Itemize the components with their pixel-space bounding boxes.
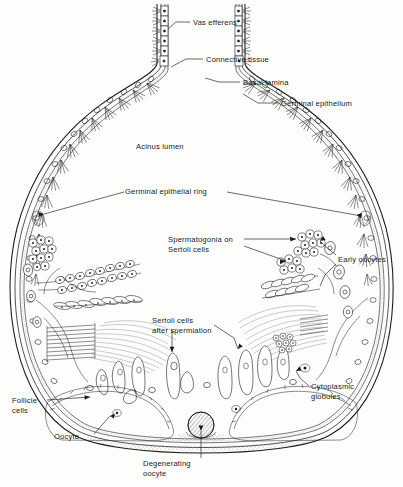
acinus-diagram: Vas efferens Connective tissue Basal lam…	[0, 0, 403, 487]
label-text-line2: globules	[311, 392, 341, 401]
label-text: Sertoli cells	[152, 316, 193, 325]
label-text: Spermatogonia on	[168, 235, 233, 244]
leader-ring-left	[44, 192, 124, 214]
leader-basal-lamina	[205, 78, 240, 82]
label-oocyte: Oocyte	[54, 432, 79, 441]
label-early-oocytes: Early oocytes	[338, 255, 386, 264]
spermatogonia-cluster-left	[29, 236, 56, 271]
label-connective-tissue: Connective tissue	[206, 55, 269, 64]
label-text-line2: oocyte	[143, 469, 166, 478]
label-sertoli-cells: Sertoli cells after spermiation	[152, 316, 212, 335]
label-spermatogonia: Spermatogonia on Sertoli cells	[168, 235, 233, 254]
label-text: Vas efferens	[193, 18, 237, 27]
label-text-line2: after spermiation	[152, 326, 212, 335]
label-text: Follicle	[12, 396, 37, 405]
label-text: Early oocytes	[338, 255, 386, 264]
label-text: Connective tissue	[206, 55, 269, 64]
label-degenerating-oocyte: Degenerating oocyte	[143, 459, 191, 478]
label-text: Cytoplasmic	[311, 382, 354, 391]
label-cytoplasmic-globules: Cytoplasmic globules	[311, 382, 354, 401]
label-text: Germinal epithelium	[281, 99, 352, 108]
label-text: Degenerating	[143, 459, 191, 468]
leader-vas-efferens	[168, 22, 190, 29]
label-basal-lamina: Basal lamina	[243, 78, 289, 87]
early-oocytes-group	[323, 240, 352, 318]
leader-spermatogonia-b	[244, 246, 286, 261]
leader-germinal-epithelium	[243, 94, 278, 103]
label-germinal-epithelial-ring: Germinal epithelial ring	[125, 187, 207, 196]
label-germinal-epithelium: Germinal epithelium	[281, 99, 352, 108]
label-text: Oocyte	[54, 432, 79, 441]
spermatogonia-cluster-right	[277, 230, 325, 274]
label-text: Germinal epithelial ring	[125, 187, 207, 196]
leader-cytoplasmic-globules	[296, 371, 309, 386]
label-text-line2: Sertoli cells	[168, 245, 209, 254]
label-text: Acinus lumen	[136, 142, 184, 151]
label-text-line2: cells	[12, 406, 28, 415]
figure-canvas: Vas efferens Connective tissue Basal lam…	[0, 0, 403, 487]
leader-ring-right	[227, 192, 356, 215]
label-text: Basal lamina	[243, 78, 289, 87]
leader-connective-tissue	[171, 59, 203, 67]
label-follicle-cells: Follicle cells	[12, 396, 37, 415]
leader-sertoli-right	[214, 325, 238, 349]
label-acinus-lumen: Acinus lumen	[136, 142, 184, 151]
label-vas-efferens: Vas efferens	[193, 18, 237, 27]
spermatid-rows-right	[260, 273, 320, 300]
spermatid-rows-left	[36, 259, 143, 310]
